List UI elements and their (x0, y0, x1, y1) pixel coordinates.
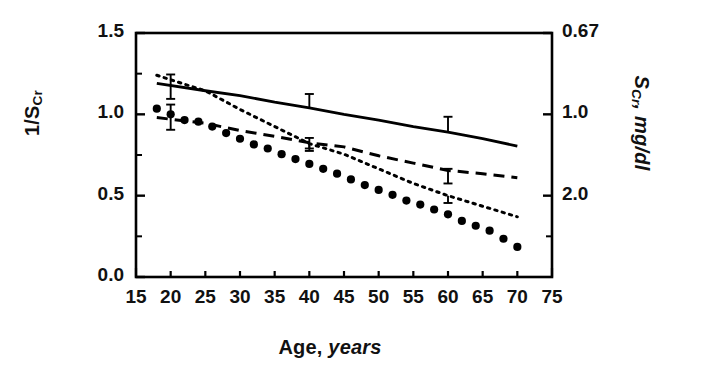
data-marker (444, 210, 452, 218)
data-marker (486, 227, 494, 235)
data-marker (361, 181, 369, 189)
y-tick-label-left-0.0: 0.0 (64, 264, 124, 286)
data-marker (388, 191, 396, 199)
y-tick-label-left-1.5: 1.5 (64, 20, 124, 42)
chart-figure: 1/SCr SCr, mg/dl Age, years 0.00.51.01.5… (0, 0, 707, 372)
data-marker (347, 175, 355, 183)
data-marker (333, 170, 341, 178)
data-marker (513, 243, 521, 251)
data-marker (278, 150, 286, 158)
data-marker (499, 235, 507, 243)
data-marker (208, 122, 216, 130)
x-tick-label-75: 75 (532, 286, 572, 308)
data-marker (222, 129, 230, 137)
y-tick-label-right-0.67: 0.67 (562, 20, 632, 42)
y-tick-label-right-1.0: 1.0 (562, 101, 632, 123)
data-marker (291, 155, 299, 163)
data-marker (319, 165, 327, 173)
data-marker (430, 205, 438, 213)
data-marker (402, 196, 410, 204)
y-tick-label-left-0.5: 0.5 (64, 183, 124, 205)
data-marker (458, 217, 466, 225)
data-marker (236, 135, 244, 143)
y-tick-label-right-2.0: 2.0 (562, 183, 632, 205)
data-marker (250, 140, 258, 148)
data-marker (153, 105, 161, 113)
data-marker (416, 201, 424, 209)
data-marker (264, 144, 272, 152)
data-marker (180, 116, 188, 124)
data-marker (305, 160, 313, 168)
y-tick-label-left-1.0: 1.0 (64, 101, 124, 123)
data-marker (375, 186, 383, 194)
data-marker (194, 118, 202, 126)
data-marker (472, 222, 480, 230)
